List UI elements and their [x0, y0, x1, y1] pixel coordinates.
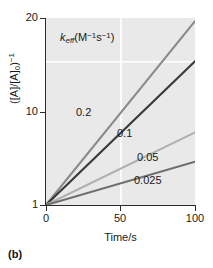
y-tick-10 [40, 112, 45, 113]
y-title-sub: 0 [13, 66, 22, 70]
panel-caption: (b) [8, 248, 22, 260]
y-tick-20 [40, 18, 45, 19]
k-subscript: eff [66, 36, 75, 45]
y-axis-title: ([A]/[A]0)−1 [6, 14, 23, 144]
units-open: (M [74, 31, 87, 43]
y-tick-1 [40, 205, 45, 206]
x-tick-label-50: 50 [105, 213, 135, 224]
y-tick-label-1: 1 [16, 199, 38, 210]
units-exp-1: −1 [87, 31, 96, 40]
x-tick-50 [120, 206, 121, 211]
x-tick-0 [46, 206, 47, 211]
units-exp-2: −1 [102, 31, 111, 40]
legend-units-annotation: keff(M−1s−1) [60, 30, 114, 47]
x-tick-100 [195, 206, 196, 211]
series-label-0.05: 0.05 [137, 152, 158, 163]
y-axis-line [45, 18, 46, 206]
series-label-0.1: 0.1 [117, 128, 132, 139]
series-label-0.2: 0.2 [76, 107, 91, 118]
x-axis-title: Time/s [46, 231, 195, 243]
units-close: ) [111, 31, 115, 43]
series-label-0.025: 0.025 [134, 175, 162, 186]
y-title-exp: −1 [7, 53, 16, 62]
x-tick-label-0: 0 [31, 213, 61, 224]
x-tick-label-100: 100 [180, 213, 210, 224]
y-title-close: ) [8, 62, 20, 66]
figure-panel-b: keff(M−1s−1) 0.2 0.1 0.05 0.025 20 10 1 … [0, 0, 213, 268]
y-title-open: ([A]/[A] [8, 70, 20, 104]
